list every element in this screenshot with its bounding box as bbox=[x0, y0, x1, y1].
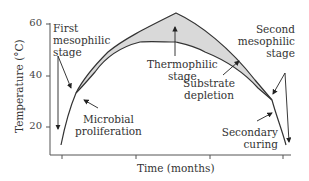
y-tick-60: 60 bbox=[22, 17, 42, 28]
composting-temperature-diagram: 60 40 20 Temperature (°C) Time (months) … bbox=[0, 0, 309, 181]
left-rise-curve bbox=[61, 93, 76, 145]
x-axis-label: Time (months) bbox=[137, 162, 214, 174]
microbial-proliferation-label: Microbial proliferation bbox=[75, 113, 142, 137]
first-mesophilic-label: First mesophilic stage bbox=[53, 22, 110, 58]
substrate-depletion-label: Substrate depletion bbox=[183, 77, 235, 101]
secondary-curing-label: Secondary curing bbox=[222, 126, 278, 150]
second-mesophilic-label: Second mesophilic stage bbox=[238, 23, 295, 59]
y-tick-40: 40 bbox=[22, 69, 42, 80]
y-axis-label: Temperature (°C) bbox=[13, 43, 25, 133]
y-tick-20: 20 bbox=[22, 120, 42, 131]
